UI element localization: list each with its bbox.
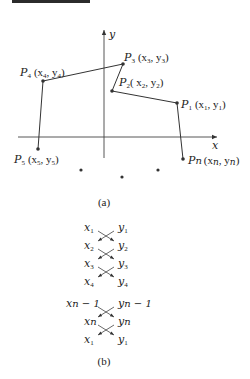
caption-b: (b)	[98, 355, 111, 368]
ellipsis-dot	[120, 175, 123, 178]
cross-arrows	[98, 307, 114, 335]
x-label: x4	[84, 275, 94, 289]
figure-b: x1 y1 x2 y2 x3 y3 x4 y4 xn − 1 yn − 1 xn…	[66, 221, 152, 368]
ellipsis-dot	[156, 168, 159, 171]
label-p3: P3(x3, y3)	[123, 51, 169, 65]
x-label: x1	[84, 221, 94, 235]
label-p1: P1(x1, y1)	[180, 98, 226, 112]
point-p5	[36, 147, 40, 151]
label-p2: P2( x2, y2)	[118, 76, 164, 90]
x-axis-label: x	[212, 139, 219, 152]
y-label: y3	[117, 257, 128, 271]
label-pn: Pn(xn, yn)	[187, 154, 240, 167]
diagram-canvas: x y P4(x4, y4) P3(x3, y3) P2( x2, y2) P1…	[0, 0, 250, 379]
x-label: xn − 1	[66, 297, 100, 310]
x-label: x3	[84, 257, 94, 271]
y-label: yn − 1	[117, 297, 152, 310]
y-label: y4	[117, 275, 128, 289]
y-label: y1	[117, 221, 128, 235]
cross-arrows	[98, 231, 114, 277]
y-label: y2	[117, 239, 128, 253]
ellipsis-dot	[79, 168, 82, 171]
x-label: x2	[84, 239, 94, 253]
point-pn	[181, 157, 185, 161]
label-p4: P4(x4, y4)	[19, 66, 65, 80]
y-label: y1	[117, 333, 128, 347]
caption-a: (a)	[98, 196, 111, 209]
x-label: x1	[84, 333, 94, 347]
x-label: xn	[84, 315, 97, 328]
y-label: yn	[117, 315, 131, 328]
point-p1	[175, 101, 179, 105]
figure-a: x y P4(x4, y4) P3(x3, y3) P2( x2, y2) P1…	[13, 28, 240, 209]
y-axis-label: y	[108, 28, 116, 41]
point-p2	[110, 89, 114, 93]
label-p5: P5(x5, y5)	[13, 153, 59, 167]
